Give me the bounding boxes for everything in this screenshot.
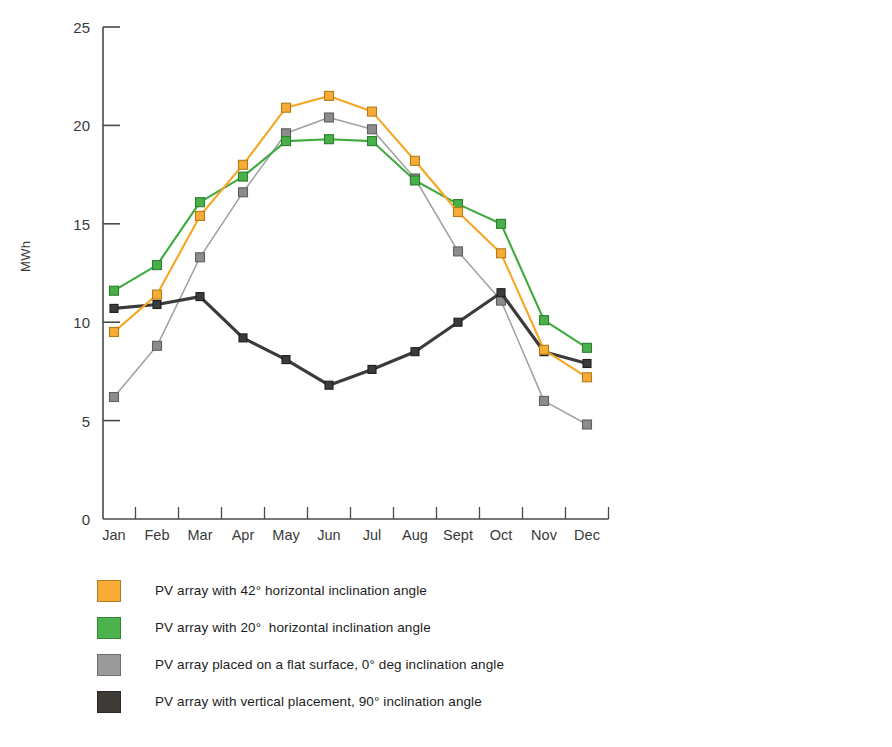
x-axis-tick-label: Aug — [402, 527, 428, 543]
y-axis-tick-label: 10 — [73, 314, 90, 331]
data-point — [368, 125, 377, 134]
data-point — [454, 208, 463, 217]
data-point — [325, 135, 334, 144]
legend-label-3: PV array with vertical placement, 90° in… — [155, 694, 482, 709]
data-point — [239, 334, 247, 342]
data-point — [497, 249, 506, 258]
data-point — [454, 318, 462, 326]
legend-item-1: PV array with 20° horizontal inclination… — [97, 609, 617, 646]
data-point — [411, 348, 419, 356]
legend-label-0: PV array with 42° horizontal inclination… — [155, 583, 427, 598]
pv-yield-line-chart: MWh 0510152025 JanFebMarAprMayJunJulAugS… — [0, 0, 892, 747]
data-point — [282, 103, 291, 112]
legend-swatch-green — [97, 617, 121, 639]
data-point — [540, 316, 549, 325]
data-point — [368, 107, 377, 116]
data-point — [411, 176, 420, 185]
data-point — [325, 381, 333, 389]
y-axis-tick-label: 0 — [82, 511, 90, 528]
data-point — [325, 113, 334, 122]
legend-item-2: PV array placed on a flat surface, 0° de… — [97, 646, 617, 683]
data-point — [153, 301, 161, 309]
data-point — [196, 211, 205, 220]
x-axis-tick-label: Jan — [102, 527, 125, 543]
data-point — [110, 393, 119, 402]
data-point — [153, 341, 162, 350]
data-point — [583, 420, 592, 429]
data-point — [196, 253, 205, 262]
data-point — [411, 156, 420, 165]
x-axis-tick-label: May — [272, 527, 300, 543]
y-axis-tick-label: 20 — [73, 117, 90, 134]
chart-legend: PV array with 42° horizontal inclination… — [97, 572, 617, 720]
data-point — [239, 160, 248, 169]
legend-label-2: PV array placed on a flat surface, 0° de… — [155, 657, 504, 672]
data-point — [325, 91, 334, 100]
y-axis-tick-label: 5 — [82, 413, 90, 430]
series-layer — [110, 91, 592, 429]
legend-item-3: PV array with vertical placement, 90° in… — [97, 683, 617, 720]
x-axis-tick-label: Jul — [363, 527, 382, 543]
data-point — [497, 219, 506, 228]
data-point — [196, 293, 204, 301]
data-point — [239, 188, 248, 197]
series-line-3 — [114, 293, 587, 386]
legend-swatch-dark — [97, 691, 121, 713]
legend-swatch-gray — [97, 654, 121, 676]
y-axis-tick-label: 15 — [73, 216, 90, 233]
data-point — [368, 137, 377, 146]
data-point — [497, 289, 505, 297]
data-point — [454, 247, 463, 256]
data-point — [368, 365, 376, 373]
data-point — [110, 286, 119, 295]
data-point — [583, 373, 592, 382]
data-point — [153, 261, 162, 270]
x-axis-tick-label: Sept — [443, 527, 473, 543]
legend-swatch-orange — [97, 580, 121, 602]
data-point — [540, 396, 549, 405]
data-point — [583, 360, 591, 368]
data-point — [153, 290, 162, 299]
x-axis-tick-label: Nov — [531, 527, 558, 543]
y-axis-tick-label: 25 — [73, 19, 90, 36]
x-axis-tick-label: Jun — [317, 527, 340, 543]
y-axis: 0510152025 — [73, 19, 120, 528]
x-axis-tick-label: Feb — [145, 527, 170, 543]
legend-label-1: PV array with 20° horizontal inclination… — [155, 620, 431, 635]
x-axis-tick-label: Apr — [232, 527, 255, 543]
data-point — [282, 137, 291, 146]
data-point — [196, 198, 205, 207]
x-axis-tick-label: Dec — [574, 527, 600, 543]
data-point — [239, 172, 248, 181]
legend-item-0: PV array with 42° horizontal inclination… — [97, 572, 617, 609]
x-axis-tick-label: Mar — [188, 527, 213, 543]
data-point — [540, 345, 549, 354]
data-point — [583, 343, 592, 352]
data-point — [110, 328, 119, 337]
data-point — [110, 304, 118, 312]
x-axis-tick-label: Oct — [490, 527, 513, 543]
data-point — [282, 356, 290, 364]
x-axis: JanFebMarAprMayJunJulAugSeptOctNovDec — [102, 507, 608, 543]
